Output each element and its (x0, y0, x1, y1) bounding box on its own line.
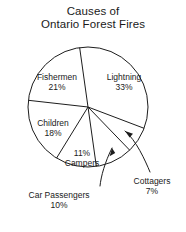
slice-label-fishermen-percent: 21% (28, 82, 86, 92)
slice-label-cottagers-name: Cottagers (123, 176, 181, 186)
slice-label-children-percent: 18% (26, 128, 80, 138)
slice-label-campers-name: Campers (57, 158, 107, 168)
slice-label-lightning-percent: 33% (96, 82, 152, 92)
spoke-cottagers-carpassengers (88, 107, 130, 150)
slice-label-campers: 11% Campers (57, 148, 107, 168)
slice-label-cottagers-percent: 7% (123, 186, 181, 196)
slice-label-campers-percent: 11% (57, 148, 107, 158)
slice-label-car-passengers-name: Car Passengers (12, 190, 106, 200)
slice-label-children: Children 18% (26, 118, 80, 138)
leader-cottagers-arrowhead (125, 131, 133, 138)
slice-label-children-name: Children (26, 118, 80, 128)
slice-label-lightning-name: Lightning (96, 72, 152, 82)
slice-label-cottagers: Cottagers 7% (123, 176, 181, 196)
pie-chart-figure: Causes of Ontario Forest Fires (0, 0, 186, 232)
spoke-lightning-cottagers (88, 107, 144, 128)
spoke-children-fishermen (28, 100, 88, 107)
slice-label-car-passengers: Car Passengers 10% (12, 190, 106, 210)
slice-label-fishermen-name: Fishermen (28, 72, 86, 82)
slice-label-fishermen: Fishermen 21% (28, 72, 86, 92)
slice-label-lightning: Lightning 33% (96, 72, 152, 92)
slice-label-car-passengers-percent: 10% (12, 200, 106, 210)
